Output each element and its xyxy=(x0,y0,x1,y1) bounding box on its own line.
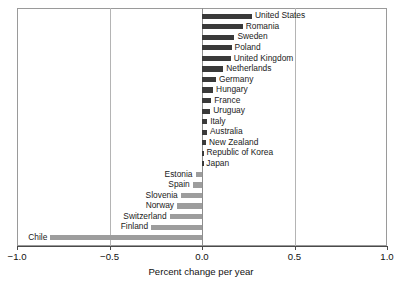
bar-row: Japan xyxy=(0,159,402,170)
bar-row: Finland xyxy=(0,222,402,233)
x-tick xyxy=(110,246,111,250)
x-tick xyxy=(17,246,18,250)
bar-row: Hungary xyxy=(0,85,402,96)
bar xyxy=(196,172,202,177)
bar xyxy=(202,130,207,135)
x-tick xyxy=(295,246,296,250)
bar-row: Slovenia xyxy=(0,190,402,201)
bar-chart: United StatesRomaniaSwedenPolandUnited K… xyxy=(0,0,402,285)
bar-row: Poland xyxy=(0,43,402,54)
bar xyxy=(202,87,213,92)
x-tick-label: −1.0 xyxy=(8,251,27,262)
bar-row: Switzerland xyxy=(0,211,402,222)
x-tick xyxy=(202,246,203,250)
x-tick xyxy=(387,246,388,250)
bar-category-label: Chile xyxy=(28,232,47,243)
bar xyxy=(177,203,202,208)
bar xyxy=(202,14,252,19)
x-tick-label: 0.0 xyxy=(195,251,208,262)
x-tick-label: −0.5 xyxy=(100,251,119,262)
bar xyxy=(202,77,216,82)
x-tick-label: 0.5 xyxy=(288,251,301,262)
bar-row: New Zealand xyxy=(0,138,402,149)
bar xyxy=(202,151,204,156)
bar xyxy=(202,98,211,103)
bar xyxy=(202,109,210,114)
bar-rows: United StatesRomaniaSwedenPolandUnited K… xyxy=(0,8,402,246)
bar-row: Estonia xyxy=(0,169,402,180)
bar xyxy=(181,193,202,198)
bar xyxy=(202,140,206,145)
bar-row: Germany xyxy=(0,74,402,85)
bar-row: Republic of Korea xyxy=(0,148,402,159)
x-tick-label: 1.0 xyxy=(380,251,393,262)
x-axis-label: Percent change per year xyxy=(0,266,402,277)
bar xyxy=(202,56,231,61)
bar-row: France xyxy=(0,95,402,106)
bar-row: United Kingdom xyxy=(0,53,402,64)
bar-row: Italy xyxy=(0,116,402,127)
bar-row: Romania xyxy=(0,22,402,33)
bar xyxy=(202,119,207,124)
bar-row: Uruguay xyxy=(0,106,402,117)
bar xyxy=(202,66,223,71)
bar xyxy=(50,235,202,240)
bar-row: Chile xyxy=(0,232,402,243)
bar-row: Spain xyxy=(0,180,402,191)
bar-row: Sweden xyxy=(0,32,402,43)
bar-category-label: Japan xyxy=(206,158,229,169)
bar xyxy=(202,35,234,40)
bar xyxy=(170,214,202,219)
bar xyxy=(151,225,202,230)
bar-row: Australia xyxy=(0,127,402,138)
bar-row: United States xyxy=(0,11,402,22)
bar xyxy=(202,45,232,50)
bar xyxy=(193,182,202,187)
bar-row: Netherlands xyxy=(0,64,402,75)
bar-category-label: Finland xyxy=(121,221,148,232)
bar xyxy=(202,24,243,29)
bar xyxy=(202,161,204,166)
bar-row: Norway xyxy=(0,201,402,212)
